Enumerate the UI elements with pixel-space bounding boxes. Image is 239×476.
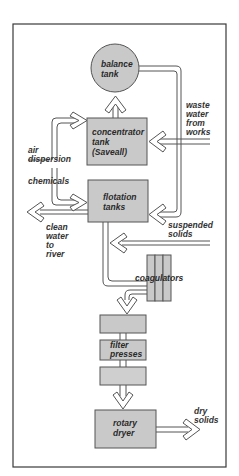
filter-presses: filter presses	[100, 315, 146, 385]
balance-tank-label-1: balance	[101, 59, 133, 69]
arrow-recycle-into-flotation-icon	[149, 204, 166, 225]
rotary-dryer-label-1: rotary	[113, 418, 138, 428]
arrow-clean-water-out-icon	[27, 202, 44, 222]
clean-water-label-4: river	[46, 249, 65, 259]
rotary-dryer-label-2: dryer	[113, 428, 135, 438]
filter-press-plate-top	[100, 315, 146, 333]
waste-water-label-4: works	[186, 127, 211, 137]
concentrator-label-1: concentrator	[92, 127, 145, 137]
pipe-press-connector-1	[120, 333, 126, 340]
arrow-air-into-concentrator-icon	[70, 112, 87, 129]
pipe-coag-out-outer	[125, 290, 147, 300]
filter-presses-label-2: presses	[109, 349, 142, 359]
rotary-dryer: rotary dryer	[95, 410, 156, 448]
dry-solids-label-2: solids	[194, 415, 219, 425]
chemicals-label: chemicals	[28, 176, 69, 186]
flotation-tanks: flotation tanks	[88, 180, 148, 222]
arrow-suspended-solids-in-icon	[110, 233, 127, 253]
balance-tank: balance tank	[91, 44, 139, 92]
flotation-label-2: tanks	[103, 202, 125, 212]
balance-tank-label-2: tank	[101, 69, 120, 79]
arrow-chemicals-into-flotation-icon	[70, 194, 87, 211]
arrow-into-dryer-icon	[113, 392, 133, 409]
process-flow-diagram: balance tank concentrator tank (Saveall)…	[0, 0, 239, 476]
pipe-press-to-dryer	[120, 385, 126, 396]
flotation-label-1: flotation	[103, 192, 137, 202]
concentrator-label-2: tank	[92, 137, 111, 147]
coagulators-label: coagulators	[135, 273, 183, 283]
concentrator-tank: concentrator tank (Saveall)	[87, 118, 147, 165]
arrow-into-filter-press-icon	[117, 297, 137, 314]
arrow-waste-into-concentrator-icon	[149, 131, 166, 152]
arrow-up-to-balance-icon	[105, 96, 126, 113]
filter-press-plate-bottom	[100, 367, 146, 385]
suspended-solids-label-2: solids	[168, 229, 193, 239]
air-dispersion-label-2: dispersion	[28, 154, 71, 164]
pipe-press-connector-2	[120, 360, 126, 367]
concentrator-label-3: (Saveall)	[92, 147, 127, 157]
